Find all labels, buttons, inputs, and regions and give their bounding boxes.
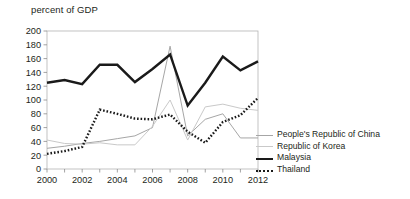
y-tick-label: 200 bbox=[26, 26, 41, 36]
legend-item-tha[interactable]: Thailand bbox=[256, 164, 380, 176]
x-tick-label: 2006 bbox=[142, 175, 162, 185]
legend-swatch-tha bbox=[256, 164, 273, 175]
x-tick-label: 2002 bbox=[72, 175, 92, 185]
x-axis-ticks: 2000200220042006200820102012 bbox=[37, 169, 268, 185]
y-tick-label: 0 bbox=[36, 164, 41, 174]
chart-legend: People's Republic of ChinaRepublic of Ko… bbox=[256, 129, 380, 175]
y-tick-label: 20 bbox=[31, 151, 41, 161]
y-tick-label: 120 bbox=[26, 82, 41, 92]
y-tick-label: 140 bbox=[26, 68, 41, 78]
legend-swatch-prc bbox=[256, 129, 273, 140]
legend-swatch-mys bbox=[256, 152, 273, 163]
legend-label-tha: Thailand bbox=[277, 164, 310, 176]
legend-item-kor[interactable]: Republic of Korea bbox=[256, 141, 380, 153]
y-axis-ticks: 020406080100120140160180200 bbox=[26, 26, 47, 174]
y-tick-label: 100 bbox=[26, 95, 41, 105]
x-tick-label: 2012 bbox=[248, 175, 268, 185]
legend-swatch-kor bbox=[256, 141, 273, 152]
y-tick-label: 160 bbox=[26, 54, 41, 64]
y-tick-label: 40 bbox=[31, 137, 41, 147]
x-tick-label: 2008 bbox=[177, 175, 197, 185]
legend-label-kor: Republic of Korea bbox=[277, 141, 345, 153]
y-tick-label: 180 bbox=[26, 40, 41, 50]
y-tick-label: 80 bbox=[31, 109, 41, 119]
legend-item-prc[interactable]: People's Republic of China bbox=[256, 129, 380, 141]
x-tick-label: 2010 bbox=[213, 175, 233, 185]
x-tick-label: 2004 bbox=[107, 175, 127, 185]
legend-item-mys[interactable]: Malaysia bbox=[256, 152, 380, 164]
x-tick-label: 2000 bbox=[37, 175, 57, 185]
chart-container: percent of GDP 0204060801001201401601802… bbox=[0, 0, 410, 199]
y-tick-label: 60 bbox=[31, 123, 41, 133]
legend-label-prc: People's Republic of China bbox=[277, 129, 380, 141]
legend-label-mys: Malaysia bbox=[277, 152, 311, 164]
